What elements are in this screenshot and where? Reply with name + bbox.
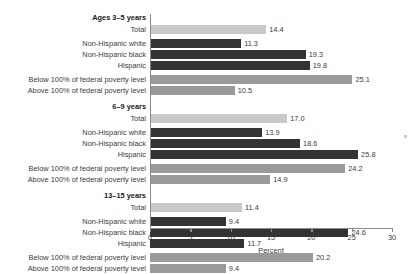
category-row-1-0: Total	[0, 113, 148, 124]
category-row-2-1: Non-Hispanic white	[0, 216, 148, 227]
category-row-2-5: Above 100% of federal poverty level	[0, 263, 148, 274]
bar-value-label-0-2: 19.3	[306, 49, 323, 60]
category-row-0-3-track: 19.8	[150, 60, 392, 71]
bar-value-label-1-5: 14.9	[270, 174, 287, 185]
category-row-2-3: Hispanic	[0, 238, 148, 249]
category-row-1-4: Below 100% of federal poverty level	[0, 163, 148, 174]
category-row-2-5-track: 9.4	[150, 263, 392, 274]
bar-0-5	[150, 86, 235, 95]
bar-value-label-0-5: 10.5	[235, 85, 252, 96]
bar-2-1	[150, 217, 226, 226]
category-row-1-1: Non-Hispanic white	[0, 127, 148, 138]
x-tick-label-6: 30	[388, 233, 396, 242]
x-tick-5	[352, 228, 353, 232]
group-header-2: 6–9 years	[0, 101, 148, 113]
category-row-1-1-track: 13.9	[150, 127, 392, 138]
top-spacer	[0, 0, 148, 12]
bar-value-label-2-0: 11.4	[242, 202, 259, 213]
x-tick-label-3: 15	[267, 233, 275, 242]
x-tick-6	[392, 228, 393, 232]
category-row-0-4: Below 100% of federal poverty level	[0, 74, 148, 85]
x-tick-label-0: 0	[148, 233, 152, 242]
x-tick-label-2: 10	[227, 233, 235, 242]
y-axis-line	[150, 14, 151, 228]
bar-2-0	[150, 203, 242, 212]
category-row-0-4-track: 25.1	[150, 74, 392, 85]
x-axis-title: Percent	[150, 246, 392, 255]
bar-value-label-1-0: 17.0	[287, 113, 304, 124]
x-tick-2	[231, 228, 232, 232]
bar-value-label-1-1: 13.9	[262, 127, 279, 138]
category-row-2-0: Total	[0, 202, 148, 213]
bar-value-label-1-3: 25.8	[358, 149, 375, 160]
category-row-1-3-track: 25.8	[150, 149, 392, 160]
category-row-2-1-track: 9.4	[150, 216, 392, 227]
category-row-0-0: Total	[0, 24, 148, 35]
category-row-2-0-track: 11.4	[150, 202, 392, 213]
category-row-0-1-track: 11.3	[150, 38, 392, 49]
x-tick-1	[190, 228, 191, 232]
x-tick-label-1: 5	[188, 233, 192, 242]
category-row-1-2-track: 18.6	[150, 138, 392, 149]
category-row-1-2: Non-Hispanic black	[0, 138, 148, 149]
bar-value-label-0-3: 19.8	[310, 60, 327, 71]
category-label-column: Ages 3–5 yearsTotalNon-Hispanic whiteNon…	[0, 0, 148, 274]
bar-1-5	[150, 175, 270, 184]
group-header-1: Ages 3–5 years	[0, 12, 148, 24]
bar-value-label-0-1: 11.3	[241, 38, 258, 49]
bar-value-label-0-4: 25.1	[352, 74, 369, 85]
bar-value-label-2-1: 9.4	[226, 216, 239, 227]
bar-1-1	[150, 128, 262, 137]
category-row-2-2: Non-Hispanic black	[0, 227, 148, 238]
bar-value-label-2-5: 9.4	[226, 263, 239, 274]
bar-value-label-0-0: 14.4	[266, 24, 283, 35]
bar-1-3	[150, 150, 358, 159]
category-row-1-4-track: 24.2	[150, 163, 392, 174]
category-row-2-4: Below 100% of federal poverty level	[0, 252, 148, 263]
bar-value-label-1-2: 18.6	[300, 138, 317, 149]
group-header-2-track	[150, 101, 392, 113]
group-header-3-track	[150, 190, 392, 202]
category-row-0-0-track: 14.4	[150, 24, 392, 35]
bar-value-label-1-4: 24.2	[345, 163, 362, 174]
bar-0-1	[150, 39, 241, 48]
bar-0-0	[150, 25, 266, 34]
x-tick-0	[150, 228, 151, 232]
bar-1-0	[150, 114, 287, 123]
top-spacer-track	[150, 0, 392, 12]
group-header-3: 13–15 years	[0, 190, 148, 202]
category-row-0-1: Non-Hispanic white	[0, 38, 148, 49]
x-tick-4	[311, 228, 312, 232]
bar-0-2	[150, 50, 306, 59]
bar-1-2	[150, 139, 300, 148]
group-header-1-track	[150, 12, 392, 24]
bar-0-3	[150, 61, 310, 70]
category-row-0-5: Above 100% of federal poverty level	[0, 85, 148, 96]
bar-2-2	[150, 228, 348, 237]
bar-2-5	[150, 264, 226, 273]
bar-1-4	[150, 164, 345, 173]
x-tick-label-5: 25	[348, 233, 356, 242]
category-row-1-0-track: 17.0	[150, 113, 392, 124]
x-tick-label-4: 20	[307, 233, 315, 242]
category-row-1-5: Above 100% of federal poverty level	[0, 174, 148, 185]
category-row-1-5-track: 14.9	[150, 174, 392, 185]
category-row-0-2-track: 19.3	[150, 49, 392, 60]
x-tick-3	[271, 228, 272, 232]
category-row-0-5-track: 10.5	[150, 85, 392, 96]
category-row-0-3: Hispanic	[0, 60, 148, 71]
bar-0-4	[150, 75, 352, 84]
category-row-1-3: Hispanic	[0, 149, 148, 160]
category-row-0-2: Non-Hispanic black	[0, 49, 148, 60]
scan-artifact-dot	[404, 135, 407, 138]
